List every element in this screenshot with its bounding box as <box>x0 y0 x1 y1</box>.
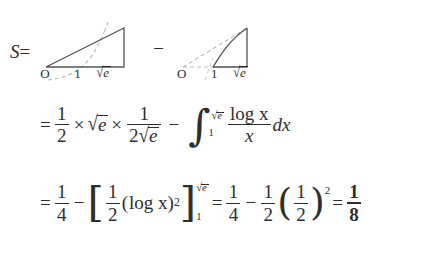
triangle-area-figure: O 1 √e <box>38 22 142 82</box>
triangle-outline <box>46 28 124 67</box>
sqrt-e-term: √e <box>87 114 108 136</box>
numerator: 1 <box>261 182 275 201</box>
dashed-log-curve <box>48 32 104 80</box>
fraction-one-quarter: 1 4 <box>55 182 69 224</box>
integral-sign: ∫ <box>188 112 210 139</box>
bracket-lower-limit: 1 <box>196 212 209 223</box>
radicand: e <box>216 111 224 122</box>
denominator: 2√e <box>127 126 161 145</box>
times-sign-2: × <box>108 114 125 136</box>
minus-sign-line2: − <box>163 114 184 136</box>
integral-limits: √e 1 <box>211 111 224 138</box>
curve-region-sides <box>213 28 247 67</box>
integral-lower-limit: 1 <box>208 128 224 139</box>
equation-line-3: = 1 4 − [ 1 2 (log x)2 ] √e 1 = 1 <box>40 182 363 224</box>
log-squared-group: (log x)2 <box>122 182 180 224</box>
parenthesized-one-half-squared: ( 1 2 ) 2 <box>277 182 330 224</box>
area-symbol-S: S <box>10 41 20 63</box>
integrand-denominator: x <box>243 126 255 145</box>
denominator: 2 <box>261 205 275 224</box>
radicand: e <box>148 126 159 145</box>
final-result-one-eighth: 1 8 <box>347 182 361 224</box>
integrand-fraction: log x x <box>228 104 271 146</box>
fraction-one-over-two-sqrt-e: 1 2√e <box>127 104 161 146</box>
equation-line-2: = 1 2 × √e × 1 2√e − ∫ √e 1 log x x <box>40 104 290 146</box>
denominator-sqrt: √e <box>139 126 160 145</box>
numerator: 1 <box>227 182 241 201</box>
paren-close: ) <box>310 189 325 216</box>
log-curve-area-figure: O 1 √e <box>175 22 279 82</box>
numerator: 1 <box>294 182 308 201</box>
integrand-numerator: log x <box>228 104 271 123</box>
evaluated-antiderivative: [ 1 2 (log x)2 ] √e 1 <box>87 182 208 224</box>
bracket-close: ] <box>180 182 196 224</box>
numerator: 1 <box>137 104 151 123</box>
numerator: 1 <box>55 182 69 201</box>
radicand: e <box>97 114 108 136</box>
log-x-term: log x <box>128 192 168 214</box>
numerator: 1 <box>55 104 69 123</box>
denominator: 4 <box>227 205 241 224</box>
bracket-upper-limit: √e <box>196 183 209 194</box>
radicand: e <box>201 183 209 194</box>
denominator: 2 <box>55 126 69 145</box>
bracket-evaluation-limits: √e 1 <box>196 182 209 224</box>
numerator: 1 <box>106 182 120 201</box>
fraction-one-quarter-2: 1 4 <box>226 182 240 224</box>
equals-sign-line3-second: = <box>209 192 225 214</box>
equals-sign-line3-third: = <box>330 192 345 214</box>
minus-sign-line3-first: − <box>71 192 88 214</box>
log-curve <box>213 28 247 67</box>
minus-sign-line3-second: − <box>242 192 259 214</box>
denominator: 2 <box>294 205 308 224</box>
integral-upper-limit: √e <box>211 111 224 122</box>
denominator-coefficient: 2 <box>129 125 139 146</box>
numerator: 1 <box>347 182 361 201</box>
fraction-one-half-2: 1 2 <box>261 182 275 224</box>
denominator: 2 <box>106 205 120 224</box>
fraction-one-half-inside-bracket: 1 2 <box>106 182 120 224</box>
definite-integral: ∫ √e 1 <box>188 111 224 138</box>
denominator: 4 <box>55 205 69 224</box>
minus-sign-line1: − <box>150 38 167 66</box>
differential-dx: dx <box>273 114 291 136</box>
equals-sign-line3-first: = <box>40 192 53 214</box>
paren-open: ( <box>277 189 292 216</box>
equation-line-1: S = O 1 √e − <box>10 22 279 82</box>
times-sign-1: × <box>71 114 88 136</box>
equals-sign-line2: = <box>40 114 53 136</box>
dashed-hypotenuse <box>183 28 247 67</box>
fraction-one-half-3: 1 2 <box>294 182 308 224</box>
bracket-open: [ <box>87 182 103 224</box>
equals-sign-line1: = <box>20 41 33 63</box>
fraction-one-half: 1 2 <box>55 104 69 146</box>
denominator: 8 <box>347 205 361 224</box>
paren-close-log: ) <box>168 192 174 214</box>
